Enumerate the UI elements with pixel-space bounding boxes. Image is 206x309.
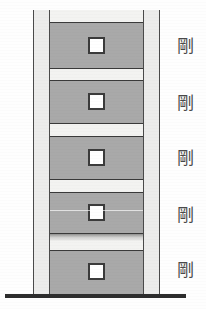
right-column — [143, 10, 160, 296]
storey-window — [88, 93, 105, 110]
building-bay — [50, 10, 143, 296]
diagram-canvas: 剛剛剛剛剛 — [0, 0, 206, 309]
storey-rigid-label: 剛 — [170, 207, 200, 224]
storey-window — [88, 263, 105, 280]
ground-line — [5, 294, 186, 298]
building-elevation — [33, 10, 160, 296]
left-column — [33, 10, 50, 296]
storey-window — [88, 149, 105, 166]
storey-window — [88, 37, 105, 54]
storey-rigid-label: 剛 — [170, 95, 200, 112]
storey-rigid-label: 剛 — [170, 150, 200, 167]
damage-smear — [50, 234, 143, 241]
storey-rigid-label: 剛 — [170, 38, 200, 55]
storey-window — [88, 204, 105, 221]
storey-rigid-label: 剛 — [170, 262, 200, 279]
